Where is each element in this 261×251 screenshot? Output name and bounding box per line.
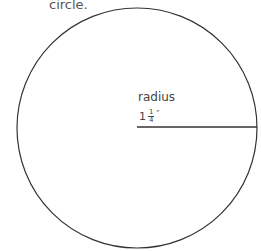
circle-outline	[17, 8, 257, 248]
radius-measurement: 1 1 4 ″	[139, 109, 159, 124]
fraction-denominator: 4	[149, 117, 153, 124]
measurement-fraction: 1 4	[148, 109, 154, 124]
circle-diagram	[0, 0, 261, 251]
radius-label: radius	[138, 90, 175, 104]
measurement-whole: 1	[139, 110, 146, 123]
inch-unit: ″	[156, 110, 159, 119]
